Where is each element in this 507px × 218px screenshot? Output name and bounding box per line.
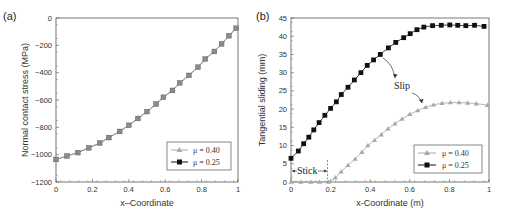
triangle-marker-icon xyxy=(448,100,453,104)
chart-panel-b: (b) 051015202530354045 00.20.40.60.81 Ta… xyxy=(256,10,491,208)
y-tick-label: −1000 xyxy=(31,150,52,159)
x-axis-label-a: x–Coordinate xyxy=(120,198,174,208)
arrow-down-icon xyxy=(393,74,398,78)
square-marker-icon xyxy=(212,49,217,54)
square-marker-icon xyxy=(289,156,294,161)
y-tick-label: 0 xyxy=(283,178,287,187)
square-marker-icon xyxy=(365,63,370,68)
square-marker-icon xyxy=(234,26,239,31)
square-marker-icon xyxy=(415,27,420,32)
x-tick-label: 0.4 xyxy=(365,185,375,194)
square-marker-icon xyxy=(393,40,398,45)
x-tick-label: 0.2 xyxy=(87,185,97,194)
legend-a: μ = 0.40 μ = 0.25 xyxy=(167,142,231,170)
square-marker-icon xyxy=(219,42,224,47)
x-axis-a: 00.20.40.60.81 xyxy=(54,179,240,194)
square-marker-icon xyxy=(186,73,191,78)
y-tick-label: 40 xyxy=(279,32,287,41)
triangle-marker-icon xyxy=(385,126,390,130)
legend-label-b-1: μ = 0.25 xyxy=(442,161,469,170)
panel-label-b: (b) xyxy=(256,10,269,22)
square-marker-icon xyxy=(482,24,487,29)
x-axis-label-b: x-Coordinate (m) xyxy=(356,198,424,208)
square-marker-icon xyxy=(352,78,357,83)
y-tick-label: 10 xyxy=(279,141,287,150)
square-marker-icon xyxy=(346,85,351,90)
square-marker-icon xyxy=(177,160,182,165)
square-marker-icon xyxy=(311,127,316,132)
stick-label: Stick xyxy=(297,165,318,176)
square-marker-icon xyxy=(154,102,159,107)
square-marker-icon xyxy=(463,23,468,28)
square-marker-icon xyxy=(328,106,333,111)
x-tick-label: 1 xyxy=(236,185,240,194)
triangle-marker-icon xyxy=(457,100,462,104)
square-marker-icon xyxy=(65,154,70,159)
x-tick-label: 0.2 xyxy=(325,185,335,194)
square-marker-icon xyxy=(54,157,59,162)
square-marker-icon xyxy=(339,92,344,97)
triangle-marker-icon xyxy=(392,121,397,125)
square-marker-icon xyxy=(401,35,406,40)
square-marker-icon xyxy=(439,23,444,28)
y-tick-label: −600 xyxy=(35,96,52,105)
slip-annotation: Slip xyxy=(383,58,424,103)
square-marker-icon xyxy=(177,81,182,86)
legend-label-b-0: μ = 0.40 xyxy=(442,149,469,158)
x-tick-label: 0.6 xyxy=(160,185,170,194)
square-marker-icon xyxy=(97,141,102,146)
square-marker-icon xyxy=(421,25,426,30)
square-marker-icon xyxy=(145,109,150,114)
x-tick-label: 0 xyxy=(54,185,58,194)
y-tick-label: 0 xyxy=(48,14,52,23)
square-marker-icon xyxy=(358,70,363,75)
square-marker-icon xyxy=(408,31,413,36)
y-tick-label: 35 xyxy=(279,50,287,59)
legend-label-a-0: μ = 0.40 xyxy=(193,146,220,155)
square-marker-icon xyxy=(306,135,311,140)
x-tick-label: 0.8 xyxy=(196,185,206,194)
y-axis-label-b: Tangential sliding (mm) xyxy=(257,54,267,147)
y-tick-label: −1200 xyxy=(31,178,52,187)
square-marker-icon xyxy=(203,57,208,62)
square-marker-icon xyxy=(447,23,452,28)
square-marker-icon xyxy=(472,23,477,28)
legend-label-a-1: μ = 0.25 xyxy=(193,158,220,167)
chart-panel-a: (a) 0−200−400−600−800−1000−1200 00.20.40… xyxy=(3,10,240,208)
y-tick-label: −200 xyxy=(35,41,52,50)
y-tick-label: −800 xyxy=(35,123,52,132)
square-marker-icon xyxy=(227,33,232,38)
square-marker-icon xyxy=(378,52,383,57)
x-tick-label: 0 xyxy=(289,185,293,194)
square-marker-icon xyxy=(322,113,327,118)
y-tick-label: 45 xyxy=(279,14,287,23)
arrow-down-icon xyxy=(419,99,424,103)
y-tick-label: −400 xyxy=(35,68,52,77)
square-marker-icon xyxy=(106,135,111,140)
square-marker-icon xyxy=(136,116,141,121)
square-marker-icon xyxy=(117,129,122,134)
square-marker-icon xyxy=(386,45,391,50)
y-tick-label: 25 xyxy=(279,86,287,95)
slip-label: Slip xyxy=(394,80,410,91)
y-tick-label: 5 xyxy=(283,159,287,168)
stick-annotation: Stick xyxy=(292,160,328,182)
y-tick-label: 15 xyxy=(279,123,287,132)
square-marker-icon xyxy=(196,65,201,70)
series-a xyxy=(53,26,238,162)
square-marker-icon xyxy=(371,58,376,63)
arrow-left-icon xyxy=(292,170,295,173)
x-tick-label: 0.8 xyxy=(444,185,454,194)
y-axis-label-a: Normal contact stress (MPa) xyxy=(20,43,30,157)
square-marker-icon xyxy=(86,145,91,150)
square-marker-icon xyxy=(455,23,460,28)
x-tick-label: 0.4 xyxy=(124,185,134,194)
square-marker-icon xyxy=(75,150,80,155)
square-marker-icon xyxy=(301,141,306,146)
square-marker-icon xyxy=(334,99,339,104)
triangle-marker-icon xyxy=(407,112,412,116)
x-tick-label: 0.6 xyxy=(405,185,415,194)
x-tick-label: 1 xyxy=(487,185,491,194)
square-marker-icon xyxy=(126,123,131,128)
legend-b: μ = 0.40 μ = 0.25 xyxy=(414,145,482,173)
